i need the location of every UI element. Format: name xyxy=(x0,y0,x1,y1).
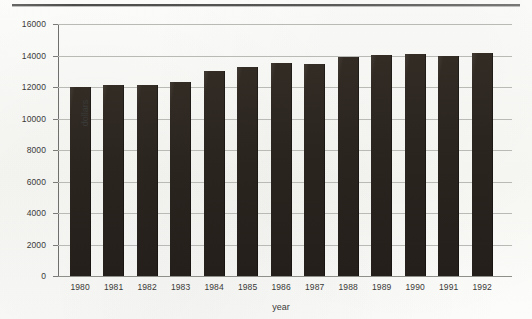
bar xyxy=(304,64,325,276)
y-axis-label: dollars xyxy=(80,78,90,148)
y-tick-label: 10000 xyxy=(0,114,46,124)
y-tick-label: 8000 xyxy=(0,145,46,155)
y-tick-label: 0 xyxy=(0,271,46,281)
y-tick-mark xyxy=(53,276,58,277)
bar xyxy=(438,56,459,276)
x-tick-label: 1992 xyxy=(462,282,502,292)
y-tick-mark xyxy=(53,182,58,183)
y-tick-mark xyxy=(53,24,58,25)
bar xyxy=(371,55,392,276)
y-tick-mark xyxy=(53,87,58,88)
plot-area: 0200040006000800010000120001400016000 19… xyxy=(58,24,512,276)
y-tick-mark xyxy=(53,150,58,151)
y-tick-label: 16000 xyxy=(0,19,46,29)
y-tick-mark xyxy=(53,119,58,120)
page-top-rule-shadow xyxy=(12,6,520,7)
y-tick-mark xyxy=(53,56,58,57)
bar xyxy=(271,63,292,276)
y-tick-label: 14000 xyxy=(0,51,46,61)
bar xyxy=(204,71,225,276)
bar xyxy=(103,85,124,276)
gridline xyxy=(58,24,512,25)
y-tick-mark xyxy=(53,213,58,214)
bar xyxy=(338,57,359,276)
bar xyxy=(472,53,493,276)
y-tick-label: 12000 xyxy=(0,82,46,92)
y-tick-label: 2000 xyxy=(0,240,46,250)
bar xyxy=(137,85,158,276)
bar xyxy=(237,67,258,276)
bar xyxy=(170,82,191,277)
y-tick-mark xyxy=(53,245,58,246)
x-axis-line xyxy=(58,276,512,277)
y-tick-label: 6000 xyxy=(0,177,46,187)
x-axis-label: year xyxy=(251,302,311,312)
y-tick-label: 4000 xyxy=(0,208,46,218)
chart-screenshot: 0200040006000800010000120001400016000 19… xyxy=(0,0,532,319)
bar xyxy=(405,54,426,276)
